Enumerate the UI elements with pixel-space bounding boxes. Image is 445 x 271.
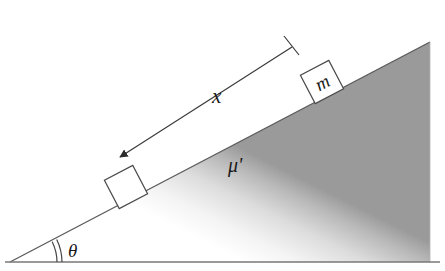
- physics-diagram: θ x m μ': [0, 0, 445, 271]
- dimension-end-tick: [284, 36, 299, 55]
- inclined-plane-wedge: [10, 42, 430, 262]
- diagram-canvas: θ x m μ': [0, 0, 445, 271]
- distance-x-label: x: [211, 84, 222, 108]
- friction-coefficient-label: μ': [227, 154, 243, 177]
- angle-theta-label: θ: [68, 240, 77, 261]
